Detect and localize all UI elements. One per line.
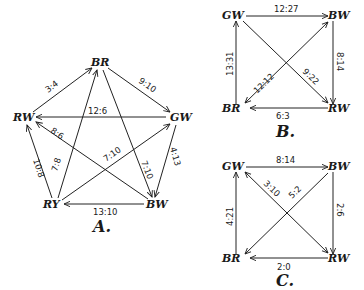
node-b-gw: GW — [222, 9, 245, 22]
edge-label: 10:8 — [31, 158, 46, 179]
edge-label: 12:12 — [251, 71, 276, 95]
caption-c: C. — [276, 271, 294, 290]
edge-label: 8:6 — [49, 125, 66, 141]
edge-label: 2:6 — [335, 203, 345, 217]
node-b-bw: BW — [327, 9, 351, 22]
node-a-gw: GW — [170, 111, 193, 124]
edge-label: 9:10 — [137, 75, 158, 94]
edge-label: 7:10 — [101, 144, 122, 163]
node-a-br: BR — [90, 56, 109, 69]
edge-label: 13:10 — [93, 207, 118, 217]
edge-label: 5:2 — [286, 184, 303, 201]
node-c-bw: BW — [327, 160, 351, 173]
node-a-ry: RY — [42, 198, 61, 211]
edge-label: 4:21 — [225, 207, 235, 226]
node-c-br: BR — [221, 252, 240, 265]
edge-label: 12:6 — [88, 106, 107, 116]
node-a-rw: RW — [12, 111, 36, 124]
caption-a: A. — [91, 217, 111, 236]
edge-label: 9:22 — [301, 66, 322, 86]
diagram-b: GW BW RW BR 12:27 8:14 6:3 13:31 9:22 12… — [221, 4, 351, 141]
edge-label: 7:8 — [49, 157, 63, 173]
edge-label: 3:4 — [43, 78, 60, 94]
node-c-gw: GW — [222, 160, 245, 173]
diagram-c: GW BW RW BR 8:14 2:6 2:0 4:21 3:10 5:2 C… — [221, 155, 351, 290]
edge-label: 8:14 — [276, 155, 295, 165]
edge-label: 12:27 — [274, 4, 299, 14]
node-a-bw: BW — [145, 198, 169, 211]
diagram-a: BR GW BW RY RW 3:4 9:10 12:6 8:6 10:8 7:… — [12, 56, 193, 236]
edge-label: 8:14 — [335, 52, 345, 71]
node-b-rw: RW — [327, 102, 351, 115]
edge-label: 6:3 — [276, 111, 290, 121]
edge-label: 4:13 — [168, 146, 183, 167]
node-b-br: BR — [221, 102, 240, 115]
edge-label: 13:31 — [225, 52, 235, 77]
node-c-rw: RW — [327, 252, 351, 265]
edge-label: 3:10 — [262, 178, 283, 198]
diagram-canvas: BR GW BW RY RW 3:4 9:10 12:6 8:6 10:8 7:… — [0, 0, 364, 290]
caption-b: B. — [275, 122, 295, 141]
